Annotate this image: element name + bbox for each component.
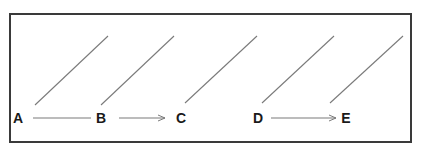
diagonal-line-5 — [330, 36, 403, 103]
diagonal-line-2 — [101, 36, 174, 105]
node-c: C — [176, 111, 186, 125]
node-d: D — [253, 111, 263, 125]
node-a: A — [13, 111, 23, 125]
diagonal-lines — [35, 36, 403, 105]
diagonal-line-3 — [185, 36, 257, 103]
diagonal-line-1 — [35, 36, 108, 105]
node-b: B — [96, 111, 106, 125]
diagonal-line-4 — [262, 36, 334, 103]
node-e: E — [341, 111, 350, 125]
diagram-canvas — [0, 0, 424, 153]
